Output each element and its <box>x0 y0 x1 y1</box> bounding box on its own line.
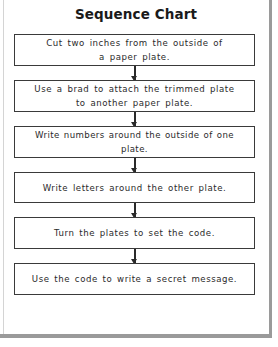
frame-bottom-border <box>0 334 272 338</box>
step-3-line-1: Write numbers around the outside of one … <box>21 128 248 156</box>
step-box-1: Cut two inches from the outside of a pap… <box>14 34 255 66</box>
step-1-line-2: a paper plate. <box>46 50 222 64</box>
step-box-2: Use a brad to attach the trimmed plate t… <box>14 80 255 112</box>
step-text-2: Use a brad to attach the trimmed plate t… <box>34 82 234 110</box>
step-4-line-1: Write letters around the other plate. <box>43 181 227 195</box>
step-box-3: Write numbers around the outside of one … <box>14 126 255 158</box>
chart-title: Sequence Chart <box>0 6 272 22</box>
step-1-line-1: Cut two inches from the outside of <box>46 36 222 50</box>
step-box-4: Write letters around the other plate. <box>14 172 255 203</box>
arrow-down-icon <box>134 66 136 80</box>
arrow-down-icon <box>134 158 136 172</box>
frame-right-border <box>269 0 272 338</box>
arrow-down-icon <box>134 203 136 217</box>
step-text-1: Cut two inches from the outside of a pap… <box>46 36 222 64</box>
step-2-line-1: Use a brad to attach the trimmed plate <box>34 82 234 96</box>
arrow-down-icon <box>134 249 136 263</box>
arrow-down-icon <box>134 112 136 126</box>
frame-left-border <box>3 0 4 336</box>
step-6-line-1: Use the code to write a secret message. <box>32 272 237 286</box>
step-5-line-1: Turn the plates to set the code. <box>54 226 215 240</box>
step-2-line-2: to another paper plate. <box>34 96 234 110</box>
step-box-5: Turn the plates to set the code. <box>14 217 255 249</box>
step-box-6: Use the code to write a secret message. <box>14 263 255 295</box>
